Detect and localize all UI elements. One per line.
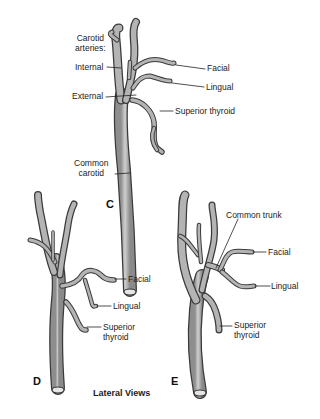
label-carotid-arteries: Carotid arteries:: [75, 33, 106, 53]
label-facial-d: Facial: [128, 274, 151, 284]
panel-letter-d: D: [33, 375, 41, 387]
panel-letter-c: C: [106, 198, 114, 210]
label-carotid-line2: arteries:: [75, 43, 106, 53]
label-common-carotid: Common carotid: [74, 158, 108, 178]
label-superior-line1-d: Superior: [103, 322, 135, 332]
label-common-trunk: Common trunk: [226, 210, 282, 220]
panel-e-vessels: [180, 195, 254, 396]
label-lingual-c: Lingual: [206, 82, 233, 92]
label-carotid-line1: Carotid: [75, 33, 106, 43]
label-facial-e: Facial: [268, 247, 291, 257]
label-facial-c: Facial: [207, 63, 230, 73]
panel-c-vessels: [110, 22, 174, 295]
label-common-line2: carotid: [74, 168, 108, 178]
label-superior-thyroid-c: Superior thyroid: [175, 106, 235, 116]
label-superior-line1-e: Superior: [234, 320, 266, 330]
figure-caption: Lateral Views: [93, 388, 150, 398]
label-internal: Internal: [75, 62, 103, 72]
label-superior-line2-e: thyroid: [234, 330, 266, 340]
label-superior-thyroid-e: Superior thyroid: [234, 320, 266, 340]
label-external: External: [72, 91, 103, 101]
label-superior-line2-d: thyroid: [103, 332, 135, 342]
label-lingual-d: Lingual: [113, 301, 140, 311]
label-superior-thyroid-d: Superior thyroid: [103, 322, 135, 342]
label-lingual-e: Lingual: [271, 281, 298, 291]
panel-letter-e: E: [171, 375, 178, 387]
label-common-line1: Common: [74, 158, 108, 168]
panel-d-vessels: [30, 195, 114, 393]
